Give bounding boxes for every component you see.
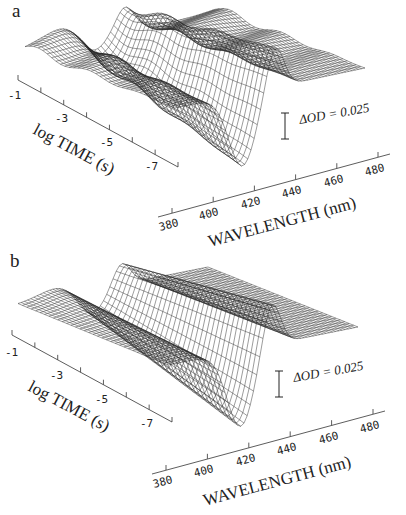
surface-plot-a: -1 -3 -5 -7 log TIME (s) 380 400 420 440… <box>0 0 406 250</box>
time-axis-a: -1 -3 -5 -7 log TIME (s) <box>8 75 178 179</box>
wavelength-axis-a: 380 400 420 440 460 480 WAVELENGTH (nm) <box>157 152 390 250</box>
time-axis-title: log TIME (s) <box>25 377 113 436</box>
od-scale-label: ΔOD = 0.025 <box>297 100 371 127</box>
time-tick: -1 <box>8 89 21 102</box>
time-axis-title: log TIME (s) <box>30 120 118 179</box>
wl-tick: 380 <box>151 473 174 491</box>
wl-tick: 420 <box>239 194 262 212</box>
od-scale-bar-a: ΔOD = 0.025 <box>281 100 371 139</box>
surface-plot-b: -1 -3 -5 -7 log TIME (s) 380 400 420 440… <box>0 250 406 515</box>
wl-tick: 380 <box>157 216 180 234</box>
wavelength-axis-title: WAVELENGTH (nm) <box>201 452 353 510</box>
wl-tick: 460 <box>317 429 340 447</box>
time-tick: -5 <box>100 136 113 149</box>
time-tick: -3 <box>55 112 68 125</box>
wavelength-axis-b: 380 400 420 440 460 480 WAVELENGTH (nm) <box>151 409 385 510</box>
panel-b: b -1 -3 -5 -7 log TIME (s) 380 400 420 4… <box>0 250 406 515</box>
od-scale-label: ΔOD = 0.025 <box>291 358 365 385</box>
time-tick: -1 <box>5 346 18 359</box>
wl-tick: 400 <box>197 205 220 223</box>
od-scale-bar-b: ΔOD = 0.025 <box>275 358 365 397</box>
wl-tick: 480 <box>358 418 381 436</box>
time-tick: -7 <box>140 417 153 430</box>
wavelength-axis-title: WAVELENGTH (nm) <box>206 193 358 250</box>
time-tick: -7 <box>145 160 158 173</box>
wl-tick: 460 <box>322 172 345 190</box>
wl-tick: 440 <box>275 440 298 458</box>
wl-tick: 480 <box>363 161 386 179</box>
wl-tick: 420 <box>234 451 257 469</box>
time-tick: -3 <box>50 369 63 382</box>
time-tick: -5 <box>95 393 108 406</box>
wl-tick: 400 <box>192 462 215 480</box>
panel-a: a -1 -3 -5 -7 log TIME (s) 380 400 420 4… <box>0 0 406 250</box>
wl-tick: 440 <box>280 183 303 201</box>
